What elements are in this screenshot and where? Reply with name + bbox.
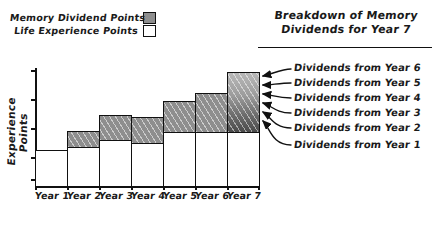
x-axis-label-year-1: Year 1 — [34, 190, 68, 201]
bar-segment-life-experience — [35, 150, 68, 187]
y-axis-tick — [31, 99, 36, 101]
x-axis-label-year-2: Year 2 — [66, 190, 100, 201]
bar-year-3[interactable] — [99, 115, 132, 187]
bar-segment-life-experience — [99, 140, 132, 187]
stacked-bar-chart: Experience Points — [0, 0, 436, 229]
bar-segment-memory-dividend — [195, 93, 228, 133]
x-axis-label-year-7: Year 7 — [226, 190, 260, 201]
bar-year-1[interactable] — [35, 150, 68, 187]
bar-segment-life-experience — [67, 147, 100, 187]
bar-segment-memory-dividend-breakdown — [227, 72, 260, 133]
bar-segment-life-experience — [195, 132, 228, 187]
y-axis-tick — [31, 128, 36, 130]
y-axis-label: Experience Points — [5, 76, 29, 189]
bar-segment-life-experience — [131, 143, 164, 187]
x-axis-label-year-5: Year 5 — [162, 190, 196, 201]
bar-year-6[interactable] — [195, 93, 228, 187]
bar-segment-life-experience — [163, 132, 196, 187]
bar-segment-memory-dividend — [131, 117, 164, 144]
bar-year-2[interactable] — [67, 131, 100, 187]
y-axis-tick — [31, 70, 36, 72]
x-axis-label-year-4: Year 4 — [130, 190, 164, 201]
x-axis-label-year-6: Year 6 — [194, 190, 228, 201]
x-axis-label-year-3: Year 3 — [98, 190, 132, 201]
bar-segment-memory-dividend — [67, 131, 100, 148]
bar-segment-life-experience — [227, 132, 260, 187]
bar-segment-memory-dividend — [163, 101, 196, 133]
bar-year-5[interactable] — [163, 101, 196, 187]
bar-year-4[interactable] — [131, 117, 164, 187]
bar-segment-memory-dividend — [99, 115, 132, 141]
bar-year-7[interactable] — [227, 72, 260, 187]
